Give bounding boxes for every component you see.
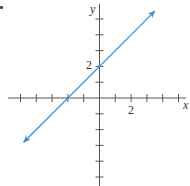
- line-y-equals-x-plus-2: [24, 11, 155, 142]
- y-tick-label-2: 2: [86, 59, 92, 71]
- x-axis-label: x: [183, 99, 188, 111]
- x-tick-label-2: 2: [128, 104, 134, 116]
- y-axis-label: y: [90, 3, 95, 15]
- coordinate-plane: [0, 0, 190, 186]
